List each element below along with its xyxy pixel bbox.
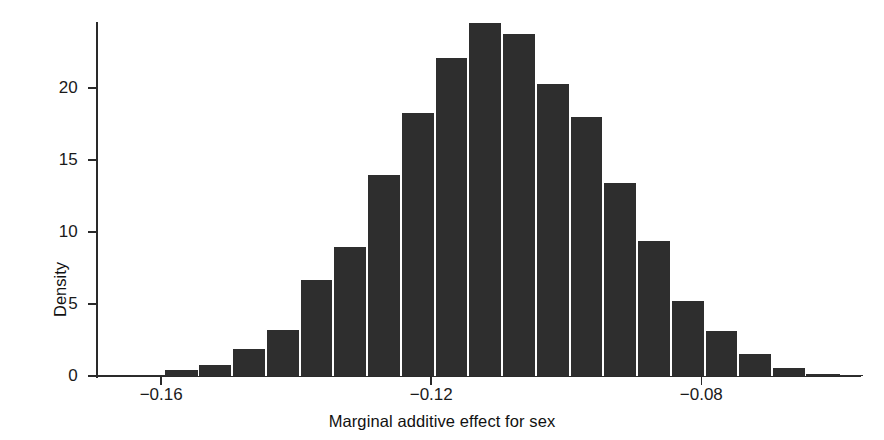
histogram-bar [367, 175, 401, 376]
histogram-figure: Density 05101520 −0.16−0.12−0.08 Margina… [0, 0, 884, 440]
histogram-bar [705, 331, 739, 376]
x-axis-tick-label: −0.16 [116, 386, 206, 405]
x-axis-tick-label: −0.12 [386, 386, 476, 405]
histogram-bars [97, 22, 862, 376]
histogram-bar [536, 84, 570, 376]
y-axis-title-container: Density [20, 120, 60, 280]
y-axis-tick-label: 20 [18, 79, 78, 96]
histogram-bar [671, 301, 705, 376]
x-axis-tick-mark [160, 377, 162, 385]
y-axis-tick-label: 5 [18, 295, 78, 312]
y-axis-tick-mark [88, 303, 97, 305]
histogram-bar [131, 375, 165, 377]
histogram-bar [738, 354, 772, 376]
histogram-bar [266, 330, 300, 376]
y-axis-tick-label: 0 [18, 367, 78, 384]
x-axis-tick-mark [701, 377, 703, 385]
histogram-bar [198, 365, 232, 377]
x-axis-tick-mark [430, 377, 432, 385]
histogram-bar [333, 247, 367, 377]
histogram-bar [603, 183, 637, 376]
y-axis-tick-mark [88, 159, 97, 161]
histogram-bar [637, 241, 671, 376]
histogram-bar [435, 58, 469, 376]
plot-area [97, 22, 860, 376]
y-axis-tick-label: 15 [18, 151, 78, 168]
y-axis-tick-label: 10 [18, 223, 78, 240]
histogram-bar [232, 349, 266, 376]
y-axis-tick-mark [88, 375, 97, 377]
x-axis-title: Marginal additive effect for sex [0, 412, 884, 431]
y-axis-tick-mark [88, 231, 97, 233]
histogram-bar [468, 23, 502, 376]
histogram-bar [772, 368, 806, 376]
histogram-bar [165, 370, 199, 376]
histogram-bar [300, 280, 334, 376]
y-axis-tick-mark [88, 87, 97, 89]
histogram-bar [570, 117, 604, 376]
histogram-bar [502, 34, 536, 376]
x-axis-tick-label: −0.08 [656, 386, 746, 405]
histogram-bar [401, 113, 435, 376]
histogram-bar [830, 375, 864, 377]
